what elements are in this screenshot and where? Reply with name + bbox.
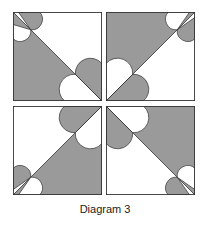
tile-bottom-right-graphic	[106, 106, 195, 195]
tile-bottom-right	[106, 106, 195, 195]
tile-bottom-left	[13, 106, 102, 195]
tile-top-right-graphic	[106, 12, 195, 101]
tile-top-left-graphic	[13, 12, 102, 101]
tile-top-left	[13, 12, 102, 101]
diagram-caption: Diagram 3	[0, 203, 210, 215]
tile-top-right	[106, 12, 195, 101]
tile-bottom-left-graphic	[13, 106, 102, 195]
